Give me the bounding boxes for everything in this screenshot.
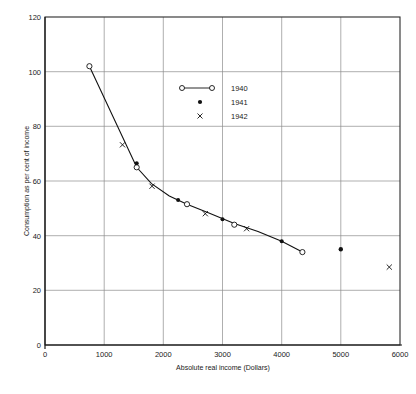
point-1942-5	[387, 265, 392, 270]
point-1940-2	[134, 165, 139, 170]
y-tick-0: 0	[37, 341, 41, 350]
y-tick-40: 40	[33, 232, 41, 241]
point-1940-4	[232, 222, 237, 227]
x-tick-0: 0	[43, 350, 47, 359]
legend-label-1940: 1940	[231, 84, 248, 93]
x-tick-labels: 0 1000 2000 3000 4000 5000 6000	[43, 350, 408, 359]
x-tick-3000: 3000	[214, 350, 231, 359]
grid-lines	[45, 17, 400, 345]
y-tick-100: 100	[28, 68, 41, 77]
legend-label-1941: 1941	[231, 98, 248, 107]
legend-marker-1941	[198, 100, 202, 104]
point-1940-1	[87, 64, 92, 69]
point-1941-2	[176, 198, 180, 202]
y-tick-120: 120	[28, 13, 41, 22]
point-1940-5	[300, 250, 305, 255]
point-1941-1	[135, 161, 139, 165]
point-1941-4	[280, 239, 284, 243]
y-tick-60: 60	[33, 177, 41, 186]
legend-label-1942: 1942	[231, 112, 248, 121]
x-tick-6000: 6000	[392, 350, 409, 359]
legend-marker-1940-left	[180, 86, 185, 91]
y-tick-80: 80	[33, 122, 41, 131]
point-1941-5	[339, 247, 343, 251]
chart-figure: 120 100 80 60 40 20 0 0 1000 2000 3000 4…	[0, 0, 416, 394]
point-1941-3	[221, 217, 225, 221]
x-axis-title: Absolute real income (Dollars)	[176, 364, 270, 372]
x-tick-4000: 4000	[273, 350, 290, 359]
legend-marker-1942	[198, 114, 203, 119]
point-1942-1	[120, 142, 125, 147]
legend-marker-1940-right	[210, 86, 215, 91]
series-1941-markers	[135, 161, 343, 251]
chart-canvas: 120 100 80 60 40 20 0 0 1000 2000 3000 4…	[0, 0, 416, 394]
x-tick-1000: 1000	[96, 350, 113, 359]
series-1940-markers	[87, 64, 305, 255]
legend-entry-1940: 1940	[180, 84, 248, 93]
clipped-footnote-text	[0, 387, 416, 394]
chart-legend: 1940 1941 1942	[180, 84, 248, 121]
x-tick-2000: 2000	[155, 350, 172, 359]
y-tick-20: 20	[33, 286, 41, 295]
series-1942-markers	[120, 142, 392, 270]
point-1940-3	[184, 202, 189, 207]
y-tick-labels: 120 100 80 60 40 20 0	[28, 13, 41, 350]
fitted-curve	[89, 66, 302, 252]
y-axis-title: Consumption as per cent of income	[23, 126, 31, 236]
x-tick-5000: 5000	[332, 350, 349, 359]
